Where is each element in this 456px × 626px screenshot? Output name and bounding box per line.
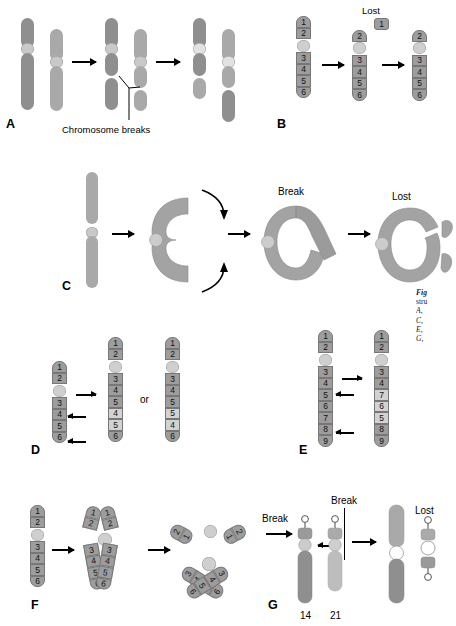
panel-g-break-label-left: Break [262,513,288,524]
panel-g-arrow-break-left [266,533,292,535]
panel-c-lost-label: Lost [392,191,411,202]
panel-f-metaphase-chromosome: 12 12 3456 3456 [82,506,138,606]
chromosome-breaks-label: Chromosome breaks [62,124,150,135]
panel-b-lost-fragment: 1 [374,18,389,30]
caption-line-2: A, [416,306,423,315]
panel-f-iso-p-left-arm: 21 [168,522,195,546]
panel-g-chr14-shape [295,515,315,605]
panel-c-rotation-arrows [196,186,236,296]
panel-g-break-label-top: Break [331,495,357,506]
panel-letter-e: E [299,443,307,457]
panel-f-original-chromosome: 12 3456 [30,505,45,587]
panel-c-ring-chromosome [372,202,456,290]
caption-line-0: Fig [416,288,427,297]
panel-g-arrow-result [352,541,376,543]
panel-e-arrow-left-1 [336,394,354,396]
panel-g-derivative-shape [386,503,408,605]
panel-c-arrow-1 [112,233,134,235]
panel-e-arrow-right [342,378,362,380]
caption-line-3: C, [416,316,423,325]
panel-b-deleted-chromosome: 2 3456 [412,30,427,101]
panel-g-lost-fragment [416,516,440,606]
panel-b-original-chromosome: 12 3456 [296,16,311,98]
panel-d-or-label: or [140,394,149,405]
panel-f-arrow-1 [52,549,74,551]
panel-letter-a: A [6,117,15,131]
panel-b-lost-label: Lost [362,5,380,16]
panel-c-break-label: Break [278,186,304,197]
panel-d-arrow-right [76,394,96,396]
panel-c-arrow-2 [228,233,250,235]
panel-b-arrow-2 [382,64,404,66]
panel-f-isochromosome-long-arm: 3456 3456 [170,556,248,618]
panel-d-tandem-duplication-chromosome: 12 345 456 [108,337,123,442]
panel-c-arrow-3 [348,233,370,235]
panel-a-arrow-1 [72,61,96,63]
panel-g-chr21-shape [325,515,345,595]
panel-f-iso-p-right-arm: 21 [221,522,248,546]
panel-letter-f: F [31,598,39,612]
panel-e-original-chromosome: 12 345 6789 [318,330,333,447]
panel-d-original-chromosome: 12 3456 [52,361,67,443]
caption-line-5: G, [416,334,423,343]
panel-g-chromosome-21-label: 21 [330,610,341,621]
panel-e-arrow-left-2 [336,432,354,434]
panel-d-arrow-left-1 [68,416,86,418]
panel-f-isochromosome-short-arm: 21 21 [180,508,242,542]
panel-e-inverted-chromosome: 12 34 765 89 [374,330,389,447]
panel-letter-d: D [31,443,40,457]
panel-a-break-leader-lines [104,74,152,122]
panel-f-arrow-2 [148,549,170,551]
panel-letter-b: B [277,117,286,131]
panel-a-arrow-2 [156,61,180,63]
figure-chromosome-structural-abnormalities: A Chromosome breaks [0,0,456,626]
panel-letter-c: C [62,279,71,293]
figure-caption: Fig stru A, C, E, G, [416,288,456,344]
panel-b-arrow-1 [322,64,344,66]
panel-d-arrow-left-2 [68,441,86,443]
panel-d-inverted-duplication-chromosome: 12 345 546 [165,337,180,442]
caption-line-4: E, [416,325,423,334]
panel-c-crossed-ring [256,198,342,290]
panel-f-chromatid-right-p: 12 [99,505,119,531]
panel-letter-g: G [268,598,278,612]
caption-line-1: stru [416,297,427,306]
panel-b-broken-chromosome: 2 3456 [352,30,367,101]
panel-g-lost-label: Lost [415,505,434,516]
panel-f-iso-p-centromere [204,525,217,538]
panel-g-chromosome-14-label: 14 [300,610,311,621]
